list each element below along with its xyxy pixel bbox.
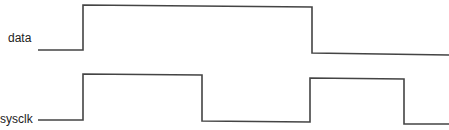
waveform-data (38, 5, 449, 55)
timing-diagram (0, 0, 449, 130)
waveform-sysclk (38, 74, 449, 124)
